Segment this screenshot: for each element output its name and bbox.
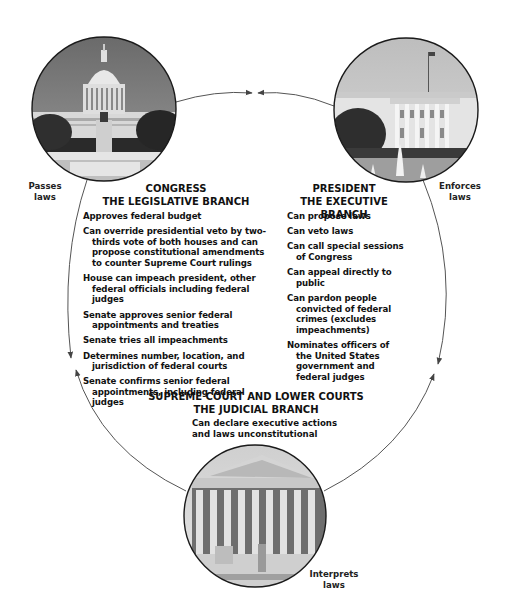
passes-laws-label: Passes laws	[22, 181, 68, 203]
capitol-photo	[28, 36, 184, 184]
executive-power-item: Can pardon people convicted of federal c…	[287, 293, 405, 335]
president-title: PRESIDENT	[282, 182, 406, 195]
executive-power-item: Can appeal directly to public	[287, 267, 405, 288]
arrow-legislative-to-executive	[176, 92, 252, 102]
supreme-court-title: SUPREME COURT AND LOWER COURTS	[140, 390, 372, 403]
executive-power-item: Nominates officers of the United States …	[287, 340, 405, 382]
enforces-label-line2: laws	[434, 192, 486, 203]
executive-powers-list: Can propose laws Can veto laws Can call …	[287, 211, 405, 387]
legislative-power-item: House can impeach president, other feder…	[83, 273, 268, 305]
legislative-power-item: Determines number, location, and jurisdi…	[83, 351, 268, 372]
passes-label-line1: Passes	[22, 181, 68, 192]
legislative-power-item: Senate approves senior federal appointme…	[83, 310, 268, 331]
interprets-laws-label: Interprets laws	[305, 569, 363, 591]
interprets-label-line1: Interprets	[305, 569, 363, 580]
legislative-power-item: Can override presidential veto by two-th…	[83, 226, 268, 268]
passes-label-line2: laws	[22, 192, 68, 203]
executive-power-item: Can veto laws	[287, 226, 405, 237]
judicial-heading: SUPREME COURT AND LOWER COURTS THE JUDIC…	[140, 390, 372, 416]
legislative-power-item: Approves federal budget	[83, 211, 268, 222]
executive-power-item: Can propose laws	[287, 211, 405, 222]
judicial-power-line2: and laws unconstitutional	[192, 429, 352, 440]
legislative-branch-title: THE LEGISLATIVE BRANCH	[100, 195, 252, 208]
white-house-photo	[330, 36, 482, 188]
judicial-power: Can declare executive actions and laws u…	[192, 418, 352, 440]
judicial-branch-title: THE JUDICIAL BRANCH	[140, 403, 372, 416]
legislative-powers-list: Approves federal budget Can override pre…	[83, 211, 268, 413]
legislative-power-item: Senate tries all impeachments	[83, 335, 268, 346]
interprets-label-line2: laws	[305, 580, 363, 591]
enforces-laws-label: Enforces laws	[434, 181, 486, 203]
enforces-label-line1: Enforces	[434, 181, 486, 192]
congress-title: CONGRESS	[100, 182, 252, 195]
arrow-executive-to-judicial	[423, 180, 446, 364]
arrow-executive-to-legislative	[258, 93, 334, 106]
executive-power-item: Can call special sessions of Congress	[287, 241, 405, 262]
judicial-power-line1: Can declare executive actions	[192, 418, 352, 429]
legislative-heading: CONGRESS THE LEGISLATIVE BRANCH	[100, 182, 252, 208]
